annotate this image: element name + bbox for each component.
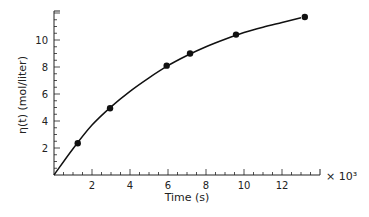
y-tick-label: 4 xyxy=(42,116,48,127)
x-tick-label: 2 xyxy=(89,180,95,191)
y-tick-label: 8 xyxy=(42,62,48,73)
axes xyxy=(54,11,320,175)
x-tick-label: 4 xyxy=(127,180,133,191)
y-axis-label: η(t) (mol/liter) xyxy=(16,56,29,134)
x-tick-label: 12 xyxy=(276,180,289,191)
data-point-marker xyxy=(302,14,308,20)
data-points xyxy=(75,14,308,147)
data-point-marker xyxy=(163,62,169,68)
y-tick-label: 10 xyxy=(35,35,48,46)
fit-curve xyxy=(54,18,301,175)
y-tick-label: 6 xyxy=(42,89,48,100)
x-tick-label: 6 xyxy=(165,180,171,191)
data-point-marker xyxy=(187,50,193,56)
tick-labels: 24681012246810 xyxy=(35,35,288,191)
data-point-marker xyxy=(107,105,113,111)
y-tick-label: 2 xyxy=(42,143,48,154)
x-tick-label: 10 xyxy=(238,180,251,191)
data-point-marker xyxy=(233,31,239,37)
x-axis-label: Time (s) xyxy=(164,191,210,204)
x-axis-multiplier: × 10³ xyxy=(326,170,357,183)
chart: 24681012246810 Time (s) × 10³ η(t) (mol/… xyxy=(0,0,369,217)
x-tick-label: 8 xyxy=(203,180,209,191)
axis-ticks xyxy=(54,13,311,175)
data-point-marker xyxy=(75,140,81,146)
